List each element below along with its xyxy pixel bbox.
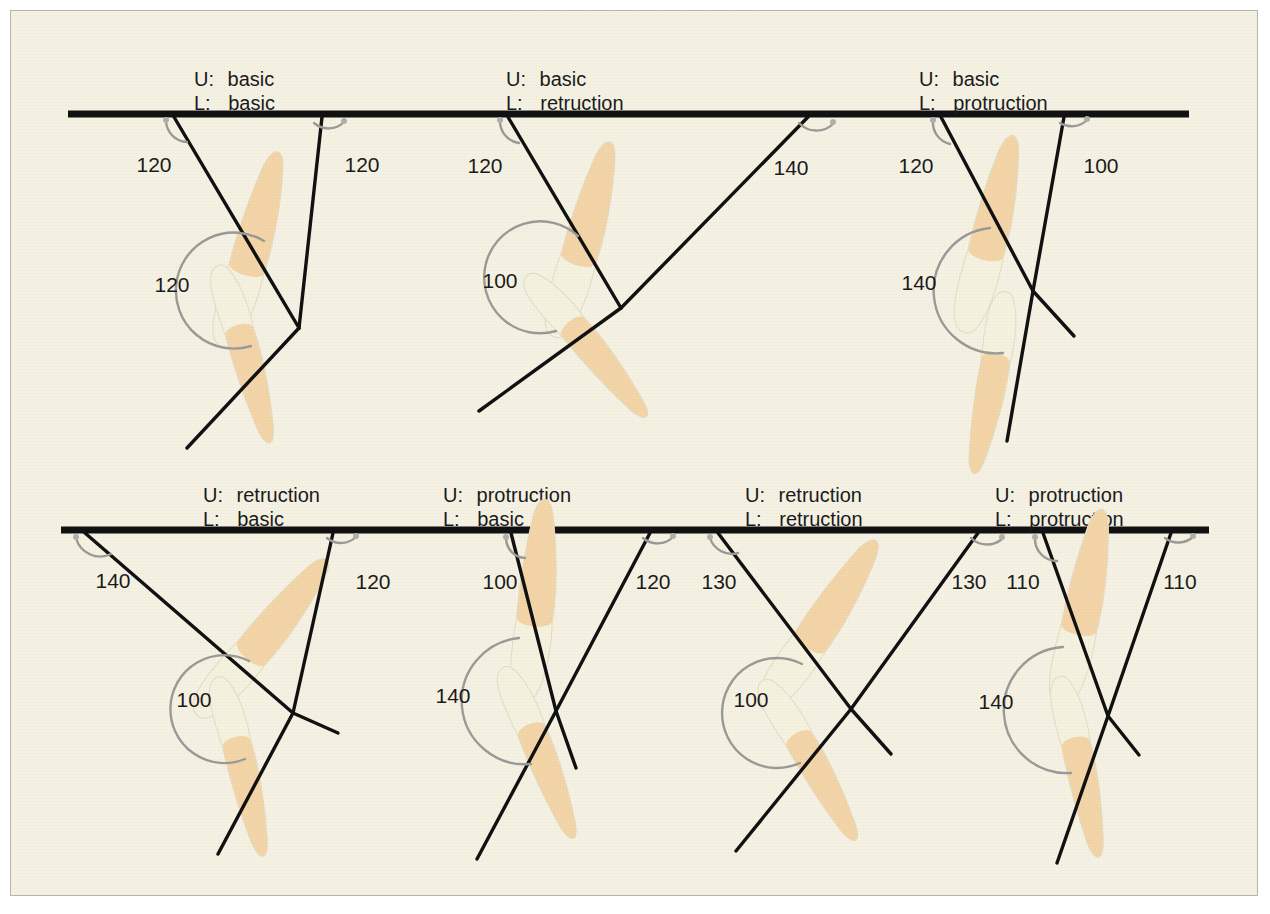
- panel-3-upper-label: U: basic: [919, 68, 999, 90]
- panel-5-lower-angle-value: 120: [635, 570, 670, 593]
- panel-5: U: protruction L: basic 100 120 140: [435, 484, 676, 859]
- panel-5-interincisal-angle-value: 140: [435, 684, 470, 707]
- panel-3-upper-axis-ext: [1033, 291, 1074, 336]
- panel-3-upper-angle-value: 120: [898, 154, 933, 177]
- panel-1-lower-angle-arc: [314, 122, 344, 128]
- panel-1-lower-arc-dot: [341, 118, 347, 124]
- panel-2-upper-angle-value: 120: [467, 154, 502, 177]
- panel-5-lower-arc-dot: [670, 533, 676, 539]
- panel-3-lower-label: L: protruction: [919, 92, 1048, 114]
- panel-2-lower-angle-value: 140: [773, 156, 808, 179]
- panel-2-upper-arc-dot: [497, 117, 503, 123]
- panel-3-lower-axis: [1033, 117, 1064, 291]
- panel-2-lower-angle-arc: [799, 123, 833, 131]
- panel-2-lower-axis: [621, 117, 808, 308]
- panel-2-lower-label: L: retruction: [506, 92, 624, 114]
- panel-3: U: basic L: protruction 120 100 140: [898, 68, 1118, 477]
- panel-4-lower-angle-value: 120: [355, 570, 390, 593]
- panel-1-lower-axis: [299, 117, 322, 328]
- panel-4-lower-axis: [293, 533, 333, 713]
- panel-4-lower-label: L: basic: [203, 508, 284, 530]
- panel-1-interincisal-angle-value: 120: [154, 273, 189, 296]
- panel-5-upper-angle-value: 100: [482, 570, 517, 593]
- panel-2-interincisal-angle-value: 100: [482, 269, 517, 292]
- panel-7-upper-angle-value: 110: [1006, 570, 1039, 593]
- panel-2: U: basic L: retruction 120 140 100: [467, 68, 836, 426]
- panel-6-upper-label: U: retruction: [745, 484, 862, 506]
- panel-6-interincisal-angle-value: 100: [733, 688, 768, 711]
- panel-4-upper-label: U: retruction: [203, 484, 320, 506]
- panel-7-upper-arc-dot: [1032, 534, 1038, 540]
- panel-6-lower-angle-value: 130: [951, 570, 986, 593]
- panel-4-upper-angle-value: 140: [95, 569, 130, 592]
- panel-7-upper-label: U: protruction: [995, 484, 1123, 506]
- panel-1: U: basic L: basic 120 120 120: [136, 68, 379, 448]
- panel-7-lower-angle-value: 110: [1163, 570, 1196, 593]
- incisor-inclination-diagram: U: basic L: basic 120 120 120: [11, 11, 1257, 895]
- panel-3-upper-arc-dot: [930, 117, 936, 123]
- panel-3-lower-angle-value: 100: [1083, 154, 1118, 177]
- panel-7-upper-axis-ext: [1108, 716, 1139, 755]
- panel-4-lower-arc-dot: [353, 533, 359, 539]
- panel-5-upper-arc-dot: [503, 534, 509, 540]
- panel-6: U: retruction L: retruction 130 130 100: [701, 484, 1005, 851]
- panel-6-upper-angle-value: 130: [701, 570, 736, 593]
- panel-4-interincisal-angle-value: 100: [176, 688, 211, 711]
- panel-1-upper-arc-dot: [163, 117, 169, 123]
- panel-6-upper-axis-ext: [851, 709, 891, 754]
- panel-4-lower-tooth: [204, 673, 279, 860]
- panel-6-lower-label: L: retruction: [745, 508, 863, 530]
- panel-4-upper-axis-ext: [293, 713, 338, 733]
- panel-2-upper-label: U: basic: [506, 68, 586, 90]
- panel-1-lower-angle-value: 120: [344, 153, 379, 176]
- panel-1-upper-angle-value: 120: [136, 153, 171, 176]
- panel-1-upper-label: U: basic: [194, 68, 274, 90]
- panel-4-upper-arc-dot: [73, 534, 79, 540]
- figure-frame: U: basic L: basic 120 120 120: [10, 10, 1258, 896]
- panel-7: U: protruction L: protruction 110 110 14…: [978, 484, 1196, 863]
- panel-2-lower-arc-dot: [830, 119, 836, 125]
- panel-3-interincisal-angle-value: 140: [901, 271, 936, 294]
- panel-7-lower-arc-dot: [1190, 533, 1196, 539]
- panel-5-lower-label: L: basic: [443, 508, 524, 530]
- panel-6-upper-arc-dot: [707, 534, 713, 540]
- panel-5-upper-label: U: protruction: [443, 484, 571, 506]
- panel-5-lower-axis: [556, 533, 650, 711]
- panel-4: U: retruction L: basic 140 120 100: [73, 484, 391, 860]
- panel-7-interincisal-angle-value: 140: [978, 690, 1013, 713]
- panel-6-lower-arc-dot: [999, 534, 1005, 540]
- panel-1-lower-label: L: basic: [194, 92, 275, 114]
- panel-3-lower-arc-dot: [1084, 116, 1090, 122]
- panel-7-lower-axis: [1108, 533, 1171, 716]
